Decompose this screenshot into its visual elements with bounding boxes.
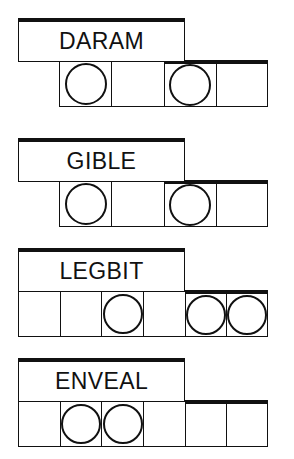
- circle-marker-icon: [186, 295, 226, 335]
- clue-label-text: DARAM: [59, 30, 144, 53]
- clue-label-text: LEGBIT: [59, 260, 143, 283]
- circle-marker-icon: [227, 295, 267, 335]
- answer-cell[interactable]: [59, 60, 111, 107]
- answer-cell[interactable]: [216, 60, 268, 107]
- answer-cell[interactable]: [216, 180, 268, 227]
- answer-cell[interactable]: [226, 290, 268, 337]
- answer-cell[interactable]: [226, 400, 268, 447]
- clue-label-box: ENVEAL: [18, 358, 185, 402]
- circle-marker-icon: [65, 63, 107, 105]
- clue-label-text: ENVEAL: [55, 370, 148, 393]
- answer-cell[interactable]: [18, 400, 60, 447]
- answer-cell[interactable]: [111, 60, 163, 107]
- answer-cell[interactable]: [60, 290, 102, 337]
- answer-cell-strip: [18, 400, 268, 447]
- clue-label-text: GIBLE: [67, 150, 137, 173]
- answer-cell[interactable]: [18, 290, 60, 337]
- answer-cell[interactable]: [59, 180, 111, 227]
- answer-cell-strip: [59, 180, 268, 227]
- answer-cell-strip: [18, 290, 268, 337]
- answer-cell[interactable]: [185, 290, 227, 337]
- puzzle-sheet: DARAMGIBLELEGBITENVEAL: [0, 0, 294, 459]
- circle-marker-icon: [169, 184, 211, 226]
- answer-cell[interactable]: [101, 400, 143, 447]
- answer-cell[interactable]: [111, 180, 163, 227]
- answer-cell[interactable]: [143, 290, 185, 337]
- circle-marker-icon: [103, 404, 143, 444]
- clue-label-box: LEGBIT: [18, 248, 185, 292]
- answer-cell[interactable]: [164, 60, 216, 107]
- answer-cell[interactable]: [164, 180, 216, 227]
- clue-label-box: DARAM: [18, 18, 185, 62]
- circle-marker-icon: [65, 183, 107, 225]
- answer-cell-strip: [59, 60, 268, 107]
- clue-label-box: GIBLE: [18, 138, 185, 182]
- answer-cell[interactable]: [185, 400, 227, 447]
- answer-cell[interactable]: [101, 290, 143, 337]
- circle-marker-icon: [103, 294, 143, 334]
- answer-cell[interactable]: [143, 400, 185, 447]
- answer-cell[interactable]: [60, 400, 102, 447]
- circle-marker-icon: [169, 64, 211, 106]
- circle-marker-icon: [61, 404, 101, 444]
